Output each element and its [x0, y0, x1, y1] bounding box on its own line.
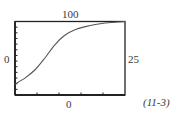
equation-number: (11-3): [143, 97, 170, 108]
bottom-axis-label: 0: [66, 99, 72, 110]
right-axis-label: 25: [128, 54, 139, 65]
left-axis-label: 0: [4, 54, 10, 65]
top-axis-label: 100: [62, 9, 79, 20]
sigmoid-curve: [15, 22, 125, 84]
